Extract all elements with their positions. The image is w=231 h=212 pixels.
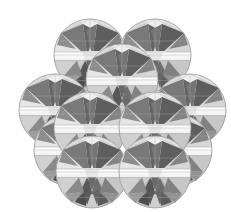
faceted-sphere-cluster-figure: Close-packed array of faceted spheres Gr… bbox=[0, 0, 231, 212]
figure-svg-canvas: Close-packed array of faceted spheres Gr… bbox=[0, 0, 231, 212]
sphere-bottom-right bbox=[119, 136, 191, 208]
sphere-bottom-left bbox=[56, 136, 128, 208]
